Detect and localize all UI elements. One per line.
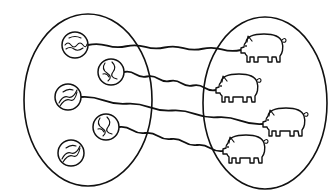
pigs-group bbox=[216, 34, 308, 163]
correspondence-diagram bbox=[0, 0, 332, 195]
connection-line bbox=[124, 72, 216, 91]
marbles-group bbox=[55, 32, 124, 166]
diagram-canvas bbox=[0, 0, 332, 195]
marble-icon bbox=[98, 59, 124, 85]
pig-icon bbox=[241, 34, 286, 62]
marble-icon bbox=[55, 84, 81, 110]
connection-line bbox=[119, 127, 223, 151]
pig-icon bbox=[223, 135, 268, 163]
marble-icon bbox=[93, 114, 119, 140]
marble-icon bbox=[62, 32, 88, 58]
pig-icon bbox=[216, 74, 261, 102]
marble-icon bbox=[58, 140, 84, 166]
marbles-set-oval bbox=[24, 14, 152, 186]
pig-icon bbox=[263, 108, 308, 136]
